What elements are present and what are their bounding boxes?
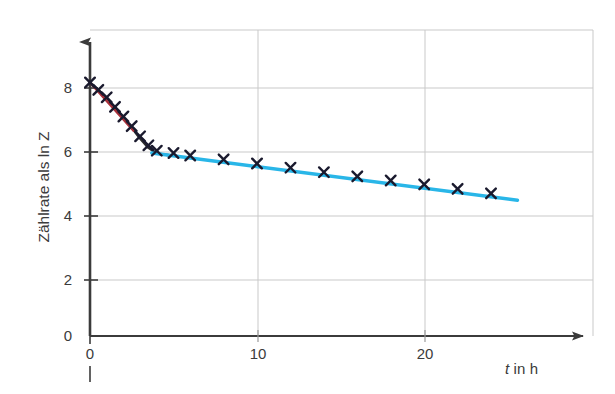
y-tick-label-2: 2 — [58, 271, 78, 288]
x-tick-label-10: 10 — [243, 345, 273, 362]
x-tick-label-0: 0 — [80, 345, 100, 362]
x-axis-title-unit: in h — [509, 360, 538, 377]
y-axis-title-wrapper: Zählrate als ln Z — [0, 0, 48, 394]
x-tick-label-20: 20 — [410, 345, 440, 362]
y-axis-title: Zählrate als ln Z — [35, 57, 53, 317]
y-tick-label-6: 6 — [58, 143, 78, 160]
horizontal-gridlines — [90, 88, 593, 280]
y-tick-label-0: 0 — [58, 327, 78, 344]
vertical-gridlines — [258, 30, 425, 336]
plot-frame — [90, 30, 593, 336]
y-tick-label-4: 4 — [58, 207, 78, 224]
chart-figure: Zählrate als ln Z t in h 8 6 4 2 0 0 10 … — [0, 0, 615, 394]
y-tick-label-8: 8 — [58, 79, 78, 96]
data-point-markers — [85, 78, 496, 199]
x-axis-title: t in h — [505, 360, 538, 377]
chart-canvas — [0, 0, 615, 394]
